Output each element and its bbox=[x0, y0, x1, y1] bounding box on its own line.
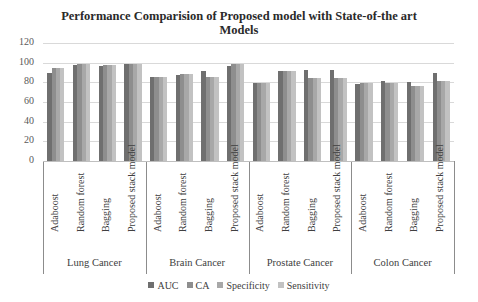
x-tick-label: Random forest bbox=[177, 173, 188, 232]
legend-swatch bbox=[148, 282, 154, 288]
x-tick-label: Bagging bbox=[203, 198, 214, 232]
x-tick-label: Bagging bbox=[100, 198, 111, 232]
bar-sensitivity bbox=[60, 68, 64, 161]
group-label: Brain Cancer bbox=[146, 257, 249, 268]
legend-label: CA bbox=[196, 280, 210, 291]
group-label: Colon Cancer bbox=[351, 257, 454, 268]
legend-item-auc: AUC bbox=[148, 280, 178, 291]
legend-label: Specificity bbox=[226, 280, 269, 291]
y-tick-label: 80 bbox=[0, 75, 34, 86]
chart-title-line-2: Models bbox=[0, 23, 478, 37]
x-tick-label: Adaboost bbox=[254, 194, 265, 232]
x-tick-label: Proposed stack model bbox=[229, 144, 240, 232]
x-axis-line bbox=[43, 161, 454, 162]
x-tick-label: Random forest bbox=[75, 173, 86, 232]
legend-swatch bbox=[278, 282, 284, 288]
group-label: Prostate Cancer bbox=[249, 257, 352, 268]
x-tick-label: Adaboost bbox=[49, 194, 60, 232]
x-tick-label: Proposed stack model bbox=[331, 144, 342, 232]
y-tick-label: 100 bbox=[0, 56, 34, 67]
legend-item-specificity: Specificity bbox=[217, 280, 269, 291]
bar-sensitivity bbox=[394, 83, 398, 161]
chart-title: Performance Comparision of Proposed mode… bbox=[0, 9, 478, 37]
x-tick-label: Bagging bbox=[408, 198, 419, 232]
bar-sensitivity bbox=[214, 77, 218, 161]
legend: AUCCASpecificitySensitivity bbox=[0, 280, 478, 291]
legend-swatch bbox=[217, 282, 223, 288]
x-tick-label: Proposed stack model bbox=[126, 144, 137, 232]
x-tick-label: Adaboost bbox=[357, 194, 368, 232]
legend-swatch bbox=[187, 282, 193, 288]
bar-sensitivity bbox=[163, 77, 167, 161]
bar-sensitivity bbox=[317, 78, 321, 161]
y-tick-label: 0 bbox=[0, 154, 34, 165]
bar-sensitivity bbox=[420, 86, 424, 161]
group-separator bbox=[454, 161, 455, 274]
y-tick-label: 60 bbox=[0, 95, 34, 106]
y-tick-label: 120 bbox=[0, 36, 34, 47]
bar-sensitivity bbox=[137, 64, 141, 161]
legend-label: AUC bbox=[157, 280, 178, 291]
x-tick-label: Random forest bbox=[383, 173, 394, 232]
bar-sensitivity bbox=[189, 74, 193, 161]
y-tick-label: 40 bbox=[0, 115, 34, 126]
x-tick-label: Adaboost bbox=[152, 194, 163, 232]
bar-sensitivity bbox=[368, 83, 372, 161]
bar-sensitivity bbox=[266, 83, 270, 161]
bar-sensitivity bbox=[445, 81, 449, 161]
legend-item-ca: CA bbox=[187, 280, 210, 291]
group-label: Lung Cancer bbox=[43, 257, 146, 268]
bar-sensitivity bbox=[343, 78, 347, 161]
bar-sensitivity bbox=[291, 71, 295, 161]
bar-sensitivity bbox=[86, 64, 90, 161]
x-tick-label: Bagging bbox=[306, 198, 317, 232]
legend-label: Sensitivity bbox=[287, 280, 330, 291]
bar-sensitivity bbox=[240, 64, 244, 161]
chart-title-line-1: Performance Comparision of Proposed mode… bbox=[0, 9, 478, 23]
y-tick-label: 20 bbox=[0, 134, 34, 145]
x-tick-label: Proposed stack model bbox=[434, 144, 445, 232]
legend-item-sensitivity: Sensitivity bbox=[278, 280, 330, 291]
bar-sensitivity bbox=[112, 65, 116, 161]
gridline bbox=[43, 43, 454, 44]
x-tick-label: Random forest bbox=[280, 173, 291, 232]
